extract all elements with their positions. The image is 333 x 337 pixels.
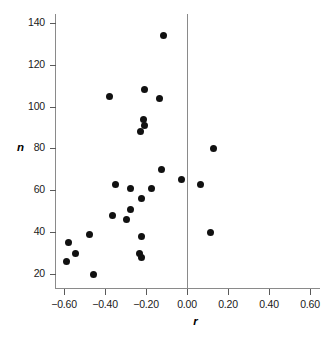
data-point	[86, 231, 93, 238]
data-point	[138, 254, 145, 261]
data-point	[127, 185, 134, 192]
y-axis-tick-label: 140	[5, 16, 45, 28]
y-axis-tick	[50, 190, 56, 191]
data-point	[148, 185, 155, 192]
y-axis-tick-label: 40	[5, 225, 45, 237]
data-point	[63, 258, 70, 265]
x-axis-tick-label: 0.40	[246, 298, 292, 310]
x-axis-tick	[146, 289, 147, 295]
y-axis-tick	[50, 23, 56, 24]
data-point	[109, 212, 116, 219]
y-axis-tick-label: 20	[5, 267, 45, 279]
y-axis-tick	[50, 274, 56, 275]
x-axis-tick-label: 0.20	[205, 298, 251, 310]
data-point	[65, 239, 72, 246]
data-point	[210, 145, 217, 152]
data-point	[72, 250, 79, 257]
y-axis-tick	[50, 148, 56, 149]
data-point	[123, 216, 130, 223]
y-axis-tick	[50, 65, 56, 66]
x-axis-tick-label: 0.00	[164, 298, 210, 310]
y-axis-tick	[50, 107, 56, 108]
data-point	[127, 206, 134, 213]
data-point	[106, 93, 113, 100]
scatter-plot-figure: 20406080100120140 −0.60−0.40−0.200.000.2…	[0, 0, 333, 337]
x-axis-tick-label: −0.40	[82, 298, 128, 310]
y-axis-title: n	[17, 141, 24, 153]
data-point	[207, 229, 214, 236]
y-axis-tick-label: 60	[5, 183, 45, 195]
data-point	[156, 95, 163, 102]
x-axis-tick	[269, 289, 270, 295]
data-point	[112, 181, 119, 188]
y-axis-line	[55, 14, 56, 289]
data-point	[90, 271, 97, 278]
x-axis-tick-label: 0.60	[287, 298, 333, 310]
y-axis-tick-label: 80	[5, 141, 45, 153]
x-axis-tick-label: −0.20	[123, 298, 169, 310]
data-point	[141, 86, 148, 93]
x-axis-tick-label: −0.60	[41, 298, 87, 310]
y-axis-tick	[50, 232, 56, 233]
data-point	[138, 195, 145, 202]
data-point	[197, 181, 204, 188]
y-axis-tick-label: 120	[5, 58, 45, 70]
x-axis-title: r	[0, 315, 333, 327]
x-axis-tick	[310, 289, 311, 295]
data-point	[138, 233, 145, 240]
zero-correlation-reference-line	[187, 14, 188, 289]
x-axis-tick	[187, 289, 188, 295]
x-axis-tick	[105, 289, 106, 295]
x-axis-tick	[64, 289, 65, 295]
data-point	[178, 176, 185, 183]
data-point	[158, 166, 165, 173]
y-axis-tick-label: 100	[5, 100, 45, 112]
x-axis-tick	[228, 289, 229, 295]
data-point	[137, 128, 144, 135]
data-point	[160, 32, 167, 39]
